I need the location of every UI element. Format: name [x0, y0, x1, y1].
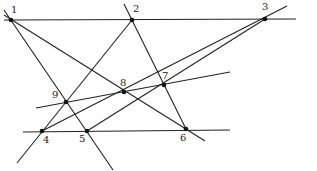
- point-8-dot: [122, 90, 127, 95]
- line-4-5-6: [23, 130, 230, 132]
- point-4-label: 4: [43, 134, 49, 145]
- points-layer: [9, 17, 268, 134]
- point-9-label: 9: [52, 89, 58, 100]
- point-3-label: 3: [262, 1, 268, 12]
- point-7-dot: [162, 83, 167, 88]
- pappus-configuration-diagram: 123456789: [0, 0, 317, 171]
- point-3-dot: [263, 17, 268, 22]
- point-2-dot: [130, 18, 135, 23]
- lines-layer: [4, 4, 296, 170]
- point-1-label: 1: [11, 4, 17, 15]
- point-2-label: 2: [133, 3, 139, 14]
- point-8-label: 8: [120, 77, 126, 88]
- point-4-dot: [40, 129, 45, 134]
- line-1-8-6: [4, 15, 205, 141]
- line-1-2-3: [4, 19, 296, 20]
- point-5-label: 5: [79, 133, 85, 144]
- point-1-dot: [9, 18, 14, 23]
- line-2-9-4: [17, 20, 132, 163]
- point-6-dot: [184, 127, 189, 132]
- labels-layer: 123456789: [11, 1, 268, 145]
- point-6-label: 6: [180, 132, 186, 143]
- point-5-dot: [85, 129, 90, 134]
- line-1-9-5: [4, 10, 113, 170]
- point-7-label: 7: [162, 70, 168, 81]
- point-9-dot: [64, 100, 69, 105]
- line-3-7-5: [87, 19, 265, 131]
- line-3-8-4: [42, 6, 287, 131]
